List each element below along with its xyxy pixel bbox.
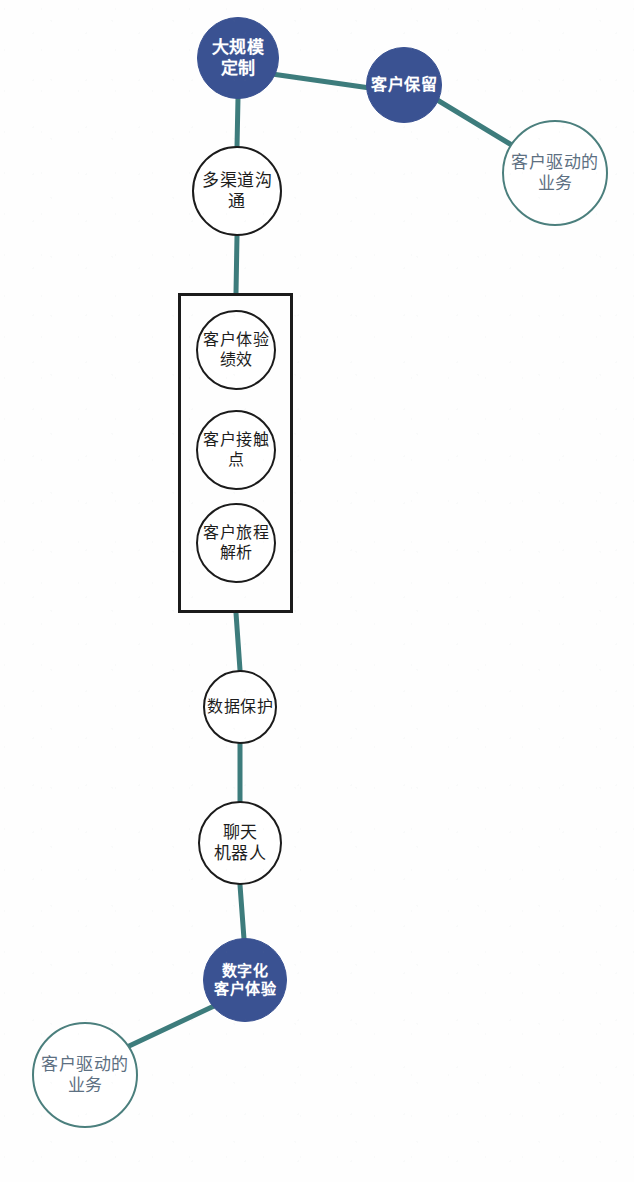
node-customer-retention[interactable]: 客户保留 xyxy=(366,47,442,123)
node-customer-driven-business-bottom[interactable]: 客户驱动的 业务 xyxy=(32,1022,138,1128)
edge-chatbot-to-digital-cx xyxy=(240,885,244,939)
diagram-canvas: 大规模 定制客户保留客户驱动的 业务多渠道沟 通客户体验 绩效客户接触 点客户旅… xyxy=(0,0,634,1182)
edge-group-box-to-data-protection xyxy=(236,613,240,670)
node-label-data-protection: 数据保护 xyxy=(205,697,275,717)
node-label-customer-driven-business-top: 客户驱动的 业务 xyxy=(504,152,606,193)
node-customer-journey-analysis[interactable]: 客户旅程 解析 xyxy=(196,503,276,583)
node-mass-customization[interactable]: 大规模 定制 xyxy=(197,17,279,99)
node-label-customer-journey-analysis: 客户旅程 解析 xyxy=(198,523,274,562)
node-label-customer-retention: 客户保留 xyxy=(367,75,441,95)
edge-mass-customization-to-multichannel-communication xyxy=(237,98,238,147)
node-digital-cx[interactable]: 数字化 客户体验 xyxy=(203,938,287,1022)
node-label-cx-performance: 客户体验 绩效 xyxy=(198,330,274,369)
node-customer-driven-business-top[interactable]: 客户驱动的 业务 xyxy=(502,120,608,226)
node-customer-touchpoints[interactable]: 客户接触 点 xyxy=(196,410,276,490)
node-label-customer-driven-business-bottom: 客户驱动的 业务 xyxy=(34,1054,136,1095)
node-label-mass-customization: 大规模 定制 xyxy=(198,37,278,78)
edge-digital-cx-to-customer-driven-business-bottom xyxy=(127,1006,214,1047)
node-label-customer-touchpoints: 客户接触 点 xyxy=(198,430,274,469)
node-data-protection[interactable]: 数据保护 xyxy=(203,670,277,744)
node-multichannel-communication[interactable]: 多渠道沟 通 xyxy=(192,146,282,236)
node-label-chatbot: 聊天 机器人 xyxy=(200,822,280,863)
edge-multichannel-communication-to-group-box xyxy=(236,236,237,293)
node-label-multichannel-communication: 多渠道沟 通 xyxy=(194,170,280,211)
node-cx-performance[interactable]: 客户体验 绩效 xyxy=(196,310,276,390)
node-chatbot[interactable]: 聊天 机器人 xyxy=(198,801,282,885)
edge-mass-customization-to-customer-retention xyxy=(272,74,370,88)
edge-customer-retention-to-customer-driven-business-top xyxy=(434,98,515,147)
node-label-digital-cx: 数字化 客户体验 xyxy=(204,962,286,999)
